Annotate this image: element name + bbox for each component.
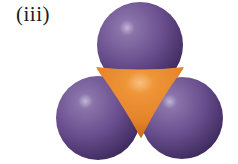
molecule-model <box>0 0 238 164</box>
